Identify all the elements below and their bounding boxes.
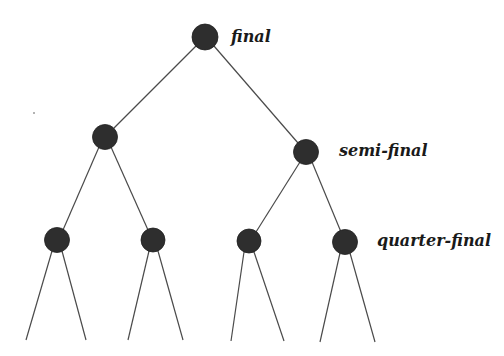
branch-qf4-right: [350, 253, 375, 342]
edges-quarter-open-branches: [26, 251, 375, 342]
node-semi-final-right: [294, 140, 319, 165]
node-quarter-final-3: [237, 229, 261, 253]
edge-final-to-semi-left: [114, 46, 196, 128]
edge-semi-left-to-qf1: [63, 147, 99, 230]
branch-qf1-left: [26, 251, 52, 340]
label-semi-final: semi-final: [338, 141, 428, 160]
edge-semi-right-to-qf3: [256, 162, 300, 232]
branch-qf3-left: [231, 252, 244, 341]
edge-final-to-semi-right: [214, 46, 298, 143]
branch-qf2-left: [128, 251, 149, 340]
node-quarter-final-1: [45, 228, 70, 253]
node-quarter-final-4: [333, 230, 358, 255]
bracket-tree-diagram: final semi-final quarter-final: [0, 0, 504, 356]
branch-qf3-right: [254, 252, 284, 341]
label-final: final: [230, 27, 271, 46]
nodes: [45, 24, 358, 255]
edge-semi-right-to-qf4: [312, 162, 341, 232]
branch-qf1-right: [62, 251, 86, 340]
node-final: [192, 24, 218, 50]
scan-speck: [33, 112, 35, 114]
branch-qf4-left: [320, 253, 340, 342]
level-labels: final semi-final quarter-final: [230, 27, 491, 250]
edge-semi-left-to-qf2: [111, 147, 148, 230]
node-quarter-final-2: [141, 228, 165, 252]
branch-qf2-right: [158, 251, 183, 340]
edges-final-to-semi: [114, 46, 298, 143]
label-quarter-final: quarter-final: [377, 231, 491, 250]
node-semi-final-left: [93, 125, 118, 150]
